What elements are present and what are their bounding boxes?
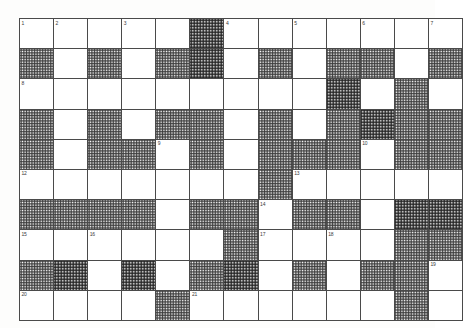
crossword-cell-blocked xyxy=(326,79,360,109)
crossword-cell-open[interactable]: 13 xyxy=(292,169,326,199)
crossword-cell-open[interactable] xyxy=(292,230,326,260)
crossword-cell-open[interactable] xyxy=(54,79,88,109)
crossword-cell-open[interactable] xyxy=(326,19,360,49)
crossword-cell-open[interactable] xyxy=(360,79,394,109)
crossword-cell-open[interactable] xyxy=(258,260,292,290)
crossword-cell-open[interactable] xyxy=(88,169,122,199)
crossword-cell-open[interactable] xyxy=(224,169,258,199)
crossword-cell-open[interactable] xyxy=(360,290,394,320)
crossword-cell-open[interactable]: 9 xyxy=(156,139,190,169)
crossword-cell-open[interactable] xyxy=(394,19,428,49)
crossword-cell-open[interactable]: 10 xyxy=(360,139,394,169)
crossword-cell-open[interactable]: 15 xyxy=(20,230,54,260)
crossword-cell-open[interactable]: 21 xyxy=(190,290,224,320)
crossword-cell-open[interactable] xyxy=(88,290,122,320)
crossword-cell-open[interactable] xyxy=(326,260,360,290)
crossword-cell-open[interactable] xyxy=(428,169,462,199)
crossword-cell-open[interactable]: 3 xyxy=(122,19,156,49)
crossword-cell-blocked xyxy=(394,260,428,290)
crossword-cell-open[interactable]: 16 xyxy=(88,230,122,260)
cell-number: 9 xyxy=(158,140,161,146)
crossword-cell-open[interactable]: 2 xyxy=(54,19,88,49)
crossword-row: 8 xyxy=(20,79,463,109)
crossword-cell-open[interactable] xyxy=(190,169,224,199)
crossword-cell-open[interactable] xyxy=(258,290,292,320)
crossword-cell-blocked xyxy=(190,139,224,169)
crossword-cell-open[interactable] xyxy=(122,49,156,79)
crossword-cell-open[interactable]: 6 xyxy=(360,19,394,49)
crossword-cell-blocked xyxy=(20,200,54,230)
crossword-cell-open[interactable] xyxy=(428,79,462,109)
crossword-cell-open[interactable] xyxy=(326,169,360,199)
crossword-cell-open[interactable] xyxy=(54,49,88,79)
crossword-cell-blocked xyxy=(428,109,462,139)
crossword-cell-open[interactable] xyxy=(156,169,190,199)
crossword-cell-open[interactable] xyxy=(292,79,326,109)
cell-number: 20 xyxy=(22,291,27,297)
crossword-cell-blocked xyxy=(258,139,292,169)
crossword-cell-open[interactable] xyxy=(88,260,122,290)
crossword-grid[interactable]: 1234567891012131415161718192021 xyxy=(19,18,463,321)
crossword-cell-open[interactable] xyxy=(224,79,258,109)
crossword-cell-open[interactable]: 1 xyxy=(20,19,54,49)
crossword-cell-open[interactable] xyxy=(258,79,292,109)
crossword-row: 1234567 xyxy=(20,19,463,49)
crossword-cell-blocked xyxy=(428,230,462,260)
cell-number: 10 xyxy=(362,140,367,146)
crossword-cell-open[interactable] xyxy=(292,49,326,79)
crossword-cell-open[interactable] xyxy=(292,290,326,320)
crossword-cell-open[interactable]: 8 xyxy=(20,79,54,109)
crossword-cell-open[interactable] xyxy=(326,290,360,320)
crossword-cell-blocked xyxy=(326,49,360,79)
crossword-cell-open[interactable]: 4 xyxy=(224,19,258,49)
crossword-row: 19 xyxy=(20,260,463,290)
crossword-cell-open[interactable] xyxy=(224,139,258,169)
crossword-cell-open[interactable]: 12 xyxy=(20,169,54,199)
crossword-cell-open[interactable] xyxy=(394,49,428,79)
crossword-cell-open[interactable] xyxy=(122,290,156,320)
crossword-cell-open[interactable]: 18 xyxy=(326,230,360,260)
crossword-cell-open[interactable] xyxy=(360,230,394,260)
cell-number: 12 xyxy=(22,170,27,176)
crossword-cell-open[interactable] xyxy=(360,169,394,199)
crossword-cell-open[interactable]: 7 xyxy=(428,19,462,49)
crossword-cell-open[interactable] xyxy=(190,79,224,109)
crossword-cell-blocked xyxy=(88,49,122,79)
crossword-cell-open[interactable] xyxy=(360,200,394,230)
crossword-cell-open[interactable] xyxy=(224,109,258,139)
crossword-cell-open[interactable] xyxy=(54,139,88,169)
crossword-cell-open[interactable] xyxy=(156,230,190,260)
crossword-cell-open[interactable] xyxy=(122,79,156,109)
crossword-cell-open[interactable] xyxy=(54,169,88,199)
crossword-cell-open[interactable] xyxy=(88,79,122,109)
crossword-cell-open[interactable] xyxy=(88,19,122,49)
cell-number: 17 xyxy=(260,231,265,237)
crossword-cell-open[interactable] xyxy=(258,19,292,49)
crossword-cell-open[interactable] xyxy=(190,230,224,260)
crossword-cell-open[interactable]: 17 xyxy=(258,230,292,260)
crossword-cell-open[interactable] xyxy=(156,200,190,230)
crossword-cell-open[interactable] xyxy=(54,290,88,320)
crossword-cell-open[interactable] xyxy=(156,19,190,49)
crossword-cell-blocked xyxy=(394,79,428,109)
crossword-cell-open[interactable] xyxy=(156,79,190,109)
crossword-cell-blocked xyxy=(190,260,224,290)
crossword-cell-open[interactable]: 5 xyxy=(292,19,326,49)
cell-number: 2 xyxy=(56,20,59,26)
crossword-cell-open[interactable] xyxy=(122,169,156,199)
crossword-row xyxy=(20,49,463,79)
crossword-cell-open[interactable] xyxy=(224,49,258,79)
crossword-cell-open[interactable] xyxy=(122,109,156,139)
crossword-cell-open[interactable]: 14 xyxy=(258,200,292,230)
crossword-cell-open[interactable]: 20 xyxy=(20,290,54,320)
crossword-puzzle: 1234567891012131415161718192021 xyxy=(19,18,416,310)
crossword-cell-open[interactable] xyxy=(122,230,156,260)
crossword-cell-open[interactable] xyxy=(54,109,88,139)
crossword-cell-open[interactable] xyxy=(292,109,326,139)
crossword-cell-open[interactable] xyxy=(224,290,258,320)
crossword-cell-open[interactable]: 19 xyxy=(428,260,462,290)
crossword-cell-open[interactable] xyxy=(394,169,428,199)
crossword-cell-open[interactable] xyxy=(428,290,462,320)
crossword-cell-open[interactable] xyxy=(54,230,88,260)
crossword-cell-open[interactable] xyxy=(156,260,190,290)
